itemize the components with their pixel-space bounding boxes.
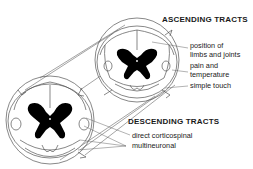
descending-item-direct-corticospinal: direct corticospinal — [132, 131, 192, 140]
ascending-item-position: position of — [190, 41, 223, 50]
spinal-cord-diagram: ASCENDING TRACTS position of limbs and j… — [0, 0, 253, 169]
ascending-tracts-title: ASCENDING TRACTS — [162, 15, 248, 24]
ascending-item-pain: pain and — [190, 61, 218, 70]
ascending-item-limbs: limbs and joints — [190, 50, 240, 59]
descending-tracts-title: DESCENDING TRACTS — [128, 117, 219, 126]
descending-item-multineuronal: multineuronal — [132, 141, 176, 150]
ascending-item-simple-touch: simple touch — [190, 81, 231, 90]
ascending-item-temperature: temperature — [190, 70, 229, 79]
